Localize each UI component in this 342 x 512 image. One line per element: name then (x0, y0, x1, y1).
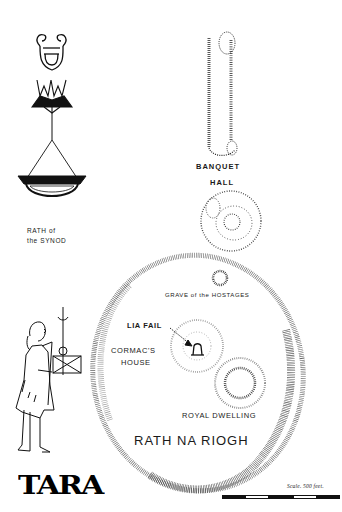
standing-stone-icon (191, 344, 204, 355)
lia-fail-label: LIA FAIL (127, 321, 162, 330)
cormacs-house-label-line2: HOUSE (121, 358, 151, 367)
grave-of-hostages-mound (213, 271, 227, 285)
tara-map: BANQUET HALL RATH of the SYNOD GRAVE of … (0, 0, 342, 512)
rath-na-riogh-enclosure (78, 242, 319, 505)
royal-dwelling-rings (215, 358, 265, 408)
rath-synod-label-line2: the SYNOD (27, 237, 66, 244)
royal-dwelling-label: ROYAL DWELLING (182, 411, 256, 420)
lyre-icon (37, 35, 66, 70)
scale-bar (222, 495, 340, 499)
map-title: TARA (18, 470, 102, 500)
hanging-lamp-icon (18, 113, 86, 196)
scale-label: Scale. 500 feet. (287, 483, 324, 489)
banquet-hall-label-line2: HALL (210, 178, 234, 187)
rath-synod-label: RATH of (27, 227, 56, 234)
cormacs-house-rings (171, 320, 223, 372)
rath-na-riogh-label: RATH NA RIOGH (134, 433, 249, 448)
banquet-hall-label: BANQUET (196, 162, 240, 171)
rath-synod-rings (201, 191, 261, 251)
standing-figure-with-scales-icon (16, 307, 81, 452)
grave-hostages-label: GRAVE of the HOSTAGES (165, 292, 249, 298)
lily-crown-icon (32, 80, 72, 113)
banquet-hall-outline (209, 32, 237, 155)
cormacs-house-label: CORMAC'S (111, 346, 156, 355)
